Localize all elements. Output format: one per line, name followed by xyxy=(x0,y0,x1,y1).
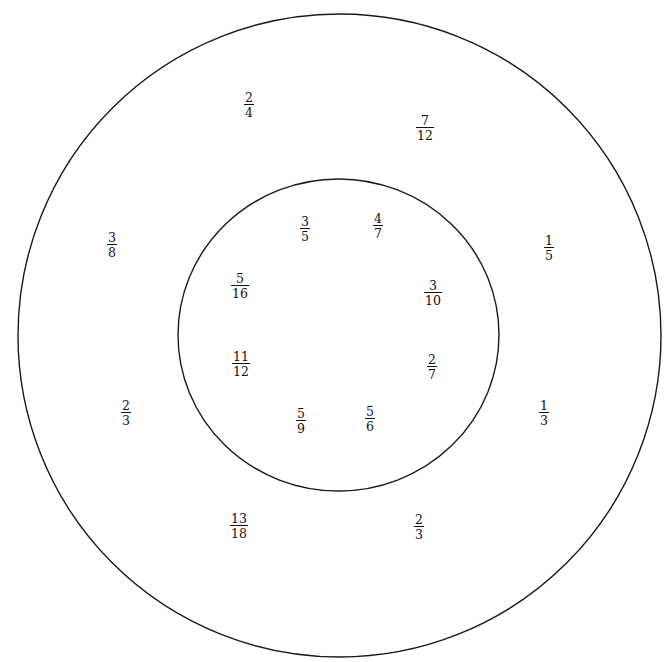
inner-circle xyxy=(178,179,499,491)
fraction-denominator: 3 xyxy=(121,414,131,426)
fraction-numerator: 4 xyxy=(373,213,383,225)
fraction-denominator: 9 xyxy=(296,422,306,434)
fraction-denominator: 16 xyxy=(231,287,249,299)
fraction-denominator: 5 xyxy=(300,230,310,242)
fraction-label: 13 xyxy=(539,400,549,426)
fraction-label: 27 xyxy=(427,354,437,380)
fraction-numerator: 3 xyxy=(107,232,117,244)
fraction-numerator: 3 xyxy=(428,280,438,292)
fraction-denominator: 4 xyxy=(244,106,254,118)
fraction-numerator: 1 xyxy=(539,400,549,412)
fraction-denominator: 7 xyxy=(427,368,437,380)
fraction-label: 38 xyxy=(107,232,117,258)
fraction-denominator: 10 xyxy=(424,294,442,306)
fraction-numerator: 13 xyxy=(230,513,248,525)
fraction-label: 15 xyxy=(544,235,554,261)
fraction-numerator: 2 xyxy=(414,514,424,526)
fraction-label: 35 xyxy=(300,216,310,242)
fraction-numerator: 1 xyxy=(544,235,554,247)
fraction-denominator: 12 xyxy=(232,365,250,377)
fraction-numerator: 7 xyxy=(420,115,430,127)
fraction-label: 1318 xyxy=(230,513,248,539)
fraction-denominator: 6 xyxy=(365,420,375,432)
fraction-denominator: 3 xyxy=(539,414,549,426)
fraction-label: 24 xyxy=(244,92,254,118)
fraction-label: 47 xyxy=(373,213,383,239)
fraction-denominator: 12 xyxy=(416,129,434,141)
outer-circle xyxy=(18,14,661,657)
fraction-denominator: 5 xyxy=(544,249,554,261)
diagram-canvas: 2471238152313131823 35475163101112275956 xyxy=(0,0,668,662)
concentric-circles xyxy=(0,0,668,662)
fraction-numerator: 3 xyxy=(300,216,310,228)
fraction-numerator: 2 xyxy=(121,400,131,412)
fraction-label: 310 xyxy=(424,280,442,306)
fraction-label: 516 xyxy=(231,273,249,299)
fraction-numerator: 2 xyxy=(244,92,254,104)
fraction-label: 23 xyxy=(414,514,424,540)
fraction-label: 1112 xyxy=(232,351,250,377)
fraction-numerator: 2 xyxy=(427,354,437,366)
fraction-numerator: 5 xyxy=(235,273,245,285)
fraction-label: 23 xyxy=(121,400,131,426)
fraction-denominator: 8 xyxy=(107,246,117,258)
fraction-numerator: 11 xyxy=(232,351,250,363)
fraction-label: 59 xyxy=(296,408,306,434)
fraction-numerator: 5 xyxy=(296,408,306,420)
fraction-denominator: 3 xyxy=(414,528,424,540)
fraction-denominator: 18 xyxy=(230,527,248,539)
fraction-label: 712 xyxy=(416,115,434,141)
fraction-denominator: 7 xyxy=(373,227,383,239)
fraction-numerator: 5 xyxy=(365,406,375,418)
fraction-label: 56 xyxy=(365,406,375,432)
